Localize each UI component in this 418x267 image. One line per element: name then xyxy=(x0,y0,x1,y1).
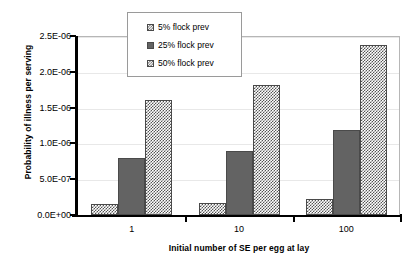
y-axis-tick-mark xyxy=(70,178,76,180)
gridline xyxy=(78,109,399,110)
bar xyxy=(199,203,226,215)
x-axis-tick-label: 10 xyxy=(234,224,244,234)
x-axis-tick-label: 1 xyxy=(129,224,134,234)
bar xyxy=(360,45,387,215)
y-axis-tick-label: 0.0E+00 xyxy=(37,210,71,220)
y-axis-tick-mark xyxy=(70,71,76,73)
bar xyxy=(226,151,253,215)
bar-chart: Probability of illness per serving 0.0E+… xyxy=(0,0,418,267)
bar xyxy=(91,204,118,215)
y-axis-tick-mark xyxy=(70,107,76,109)
legend-swatch-icon xyxy=(147,60,154,67)
bar xyxy=(306,199,333,215)
legend-item[interactable]: 25% flock prev xyxy=(128,36,241,54)
y-axis-tick-label: 5.0E-07 xyxy=(39,174,71,184)
x-axis-tick-mark xyxy=(185,217,187,222)
y-axis-tick-mark xyxy=(70,142,76,144)
legend-item[interactable]: 50% flock prev xyxy=(128,54,241,72)
chart-legend: 5% flock prev25% flock prev50% flock pre… xyxy=(127,12,242,77)
legend-label: 5% flock prev xyxy=(158,22,209,32)
y-axis-tick-label: 1.0E-06 xyxy=(39,138,71,148)
y-axis-tick-label: 1.5E-06 xyxy=(39,103,71,113)
legend-swatch-icon xyxy=(147,42,154,49)
legend-item[interactable]: 5% flock prev xyxy=(128,18,241,36)
x-axis-tick-mark xyxy=(400,217,402,222)
x-axis-title: Initial number of SE per egg at lay xyxy=(78,243,400,253)
y-axis-tick-labels: 0.0E+005.0E-071.0E-061.5E-062.0E-062.5E-… xyxy=(18,0,71,267)
y-axis-tick-label: 2.0E-06 xyxy=(39,67,71,77)
x-axis-tick-mark xyxy=(293,217,295,222)
y-axis-tick-mark xyxy=(70,35,76,37)
bar xyxy=(145,100,172,215)
x-axis-tick-label: 100 xyxy=(339,224,354,234)
bar xyxy=(118,158,145,215)
bar xyxy=(253,85,280,215)
bar xyxy=(333,130,360,215)
legend-swatch-icon xyxy=(147,24,154,31)
y-axis-tick-mark xyxy=(70,214,76,216)
y-axis-tick-label: 2.5E-06 xyxy=(39,31,71,41)
legend-label: 25% flock prev xyxy=(158,40,214,50)
legend-label: 50% flock prev xyxy=(158,58,214,68)
